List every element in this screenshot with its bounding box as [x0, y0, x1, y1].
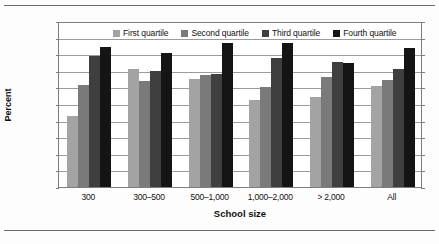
- x-tick-label: 500–1,000: [190, 192, 228, 202]
- legend-item: Fourth quartile: [333, 28, 396, 38]
- y-tick-mark-right: [421, 188, 425, 189]
- bar-group: [241, 22, 302, 187]
- legend-swatch-icon: [181, 30, 188, 37]
- bar-group: [362, 22, 423, 187]
- bar-group: [180, 22, 241, 187]
- bar-group: [120, 22, 181, 187]
- x-tick-label: > 2,000: [317, 192, 344, 202]
- bar: [249, 100, 260, 187]
- x-tick-label: All: [387, 192, 396, 202]
- bar-group-container: [59, 22, 421, 187]
- legend-label: Second quartile: [191, 28, 249, 38]
- bar: [371, 86, 382, 187]
- bar: [282, 43, 293, 187]
- plot-area: [58, 22, 422, 188]
- bar: [211, 74, 222, 187]
- bar: [343, 63, 354, 187]
- bar: [332, 62, 343, 187]
- bar: [222, 43, 233, 187]
- bar: [271, 58, 282, 187]
- bar: [67, 116, 78, 187]
- legend-swatch-icon: [333, 30, 340, 37]
- x-axis-title: School size: [214, 208, 266, 219]
- x-tick-label: 300–500: [133, 192, 165, 202]
- legend-item: Third quartile: [262, 28, 320, 38]
- bar: [89, 56, 100, 187]
- legend-label: Third quartile: [272, 28, 320, 38]
- bar: [382, 80, 393, 187]
- legend-item: Second quartile: [181, 28, 249, 38]
- bar-group: [59, 22, 120, 187]
- bottom-divider-rule: [4, 230, 435, 231]
- bar: [128, 69, 139, 187]
- bar: [161, 53, 172, 187]
- bar-group: [302, 22, 363, 187]
- chart-figure: Percent 0102030405060708090100 300300–50…: [0, 0, 439, 244]
- bar: [139, 81, 150, 187]
- bar: [260, 87, 271, 187]
- legend-swatch-icon: [262, 30, 269, 37]
- y-tick-mark: [56, 188, 59, 189]
- bar: [321, 77, 332, 187]
- bar: [150, 71, 161, 187]
- top-divider-rule: [4, 5, 435, 6]
- bar: [100, 47, 111, 187]
- bar: [404, 48, 415, 187]
- bar: [310, 97, 321, 187]
- x-tick-label: 300: [82, 192, 96, 202]
- bar: [78, 85, 89, 187]
- x-tick-label: 1,000–2,000: [248, 192, 293, 202]
- legend-label: Fourth quartile: [343, 28, 396, 38]
- legend-swatch-icon: [113, 30, 120, 37]
- bar: [189, 79, 200, 187]
- bar: [393, 69, 404, 187]
- y-axis-title: Percent: [3, 88, 13, 121]
- chart-legend: First quartileSecond quartileThird quart…: [113, 28, 396, 38]
- legend-item: First quartile: [113, 28, 168, 38]
- legend-label: First quartile: [123, 28, 168, 38]
- bar: [200, 75, 211, 187]
